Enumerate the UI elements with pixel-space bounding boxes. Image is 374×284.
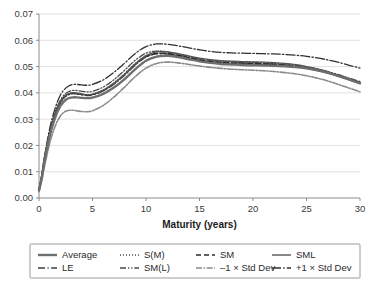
x-tick-label: 30 xyxy=(355,203,366,214)
x-tick-label: 25 xyxy=(301,203,312,214)
top-crop-strip xyxy=(0,0,374,9)
legend-label-sm: SM xyxy=(220,249,234,260)
chart-svg-canvas: 0.000.010.020.030.040.050.060.0705101520… xyxy=(0,0,374,284)
y-tick-label: 0.07 xyxy=(15,8,34,19)
y-tick-label: 0.01 xyxy=(15,166,34,177)
legend-label-1-std-dev: +1 × Std Dev xyxy=(296,262,352,273)
x-tick-label: 10 xyxy=(141,203,152,214)
yield-curve-chart: 0.000.010.020.030.040.050.060.0705101520… xyxy=(0,0,374,284)
y-tick-label: 0.02 xyxy=(15,140,34,151)
y-tick-label: 0.06 xyxy=(15,35,34,46)
legend-label-sm-l: SM(L) xyxy=(144,262,170,273)
series-line-s-m xyxy=(39,53,360,191)
x-tick-label: 0 xyxy=(36,203,41,214)
legend-label-s-m: S(M) xyxy=(144,249,165,260)
legend-label-average: Average xyxy=(62,249,97,260)
x-tick-label: 20 xyxy=(248,203,259,214)
legend-label-1-std-dev: –1 × Std Dev xyxy=(220,262,275,273)
series-line-1-std-dev xyxy=(39,62,360,192)
x-tick-label: 5 xyxy=(90,203,95,214)
y-tick-label: 0.00 xyxy=(15,192,34,203)
series-line-sm xyxy=(39,53,360,190)
series-line-le xyxy=(39,54,360,190)
y-tick-label: 0.05 xyxy=(15,61,34,72)
legend-label-sml: SML xyxy=(296,249,316,260)
series-line-sml xyxy=(39,51,360,189)
x-axis-title: Maturity (years) xyxy=(162,219,236,230)
series-line-average xyxy=(39,56,360,190)
x-tick-label: 15 xyxy=(194,203,205,214)
legend-label-le: LE xyxy=(62,262,74,273)
y-tick-label: 0.03 xyxy=(15,114,34,125)
series-line-sm-l xyxy=(39,51,360,190)
y-tick-label: 0.04 xyxy=(15,87,34,98)
